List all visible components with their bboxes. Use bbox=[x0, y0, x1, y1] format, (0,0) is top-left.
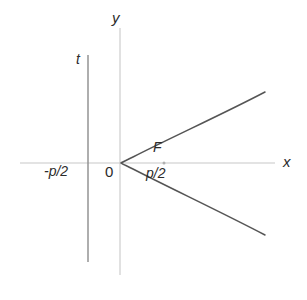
x-axis-label: x bbox=[283, 154, 291, 169]
directrix-value-label: -p/2 bbox=[44, 164, 68, 178]
parabola-figure: y x t 0 -p/2 F p/2 bbox=[0, 0, 307, 300]
y-axis-label: y bbox=[112, 10, 120, 25]
focus-value-label: p/2 bbox=[146, 166, 165, 180]
origin-label: 0 bbox=[105, 164, 113, 179]
directrix-label: t bbox=[76, 52, 80, 66]
focus-label: F bbox=[153, 140, 162, 154]
